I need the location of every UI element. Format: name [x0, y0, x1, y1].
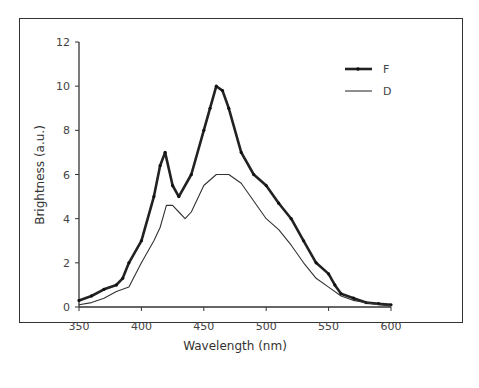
- y-tick-label: 6: [63, 169, 70, 182]
- x-tick-label: 350: [69, 320, 90, 333]
- y-tick-label: 4: [63, 213, 70, 226]
- series-F: [79, 86, 391, 305]
- x-tick-label: 450: [193, 320, 214, 333]
- y-tick-label: 8: [63, 124, 70, 137]
- y-tick-label: 2: [63, 257, 70, 270]
- legend-label-D: D: [383, 85, 391, 98]
- x-tick-label: 500: [256, 320, 277, 333]
- y-axis-label: Brightness (a.u.): [33, 125, 47, 225]
- y-tick-label: 10: [56, 80, 70, 93]
- x-axis-label: Wavelength (nm): [183, 339, 287, 353]
- line-chart: 350400450500550600024681012 FD Wavelengt…: [0, 0, 479, 388]
- x-tick-label: 600: [381, 320, 402, 333]
- y-tick-label: 0: [63, 301, 70, 314]
- series-D: [79, 175, 391, 306]
- x-tick-label: 400: [131, 320, 152, 333]
- x-tick-label: 550: [318, 320, 339, 333]
- y-tick-label: 12: [56, 36, 70, 49]
- legend: FD: [345, 63, 391, 98]
- series-lines: [77, 85, 392, 307]
- legend-label-F: F: [383, 63, 389, 76]
